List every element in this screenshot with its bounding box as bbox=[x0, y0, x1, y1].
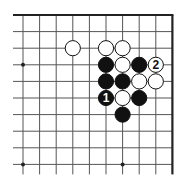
white-stone bbox=[98, 41, 113, 56]
white-stone bbox=[65, 41, 80, 56]
black-stone bbox=[115, 107, 130, 122]
white-stone bbox=[115, 41, 130, 56]
go-board-diagram: 21 bbox=[0, 0, 184, 190]
black-stone bbox=[98, 74, 113, 89]
black-stone: 1 bbox=[98, 90, 113, 105]
black-stone bbox=[132, 90, 147, 105]
white-stone bbox=[115, 90, 130, 105]
move-number-label: 1 bbox=[103, 91, 110, 105]
black-stone bbox=[115, 74, 130, 89]
move-number-label: 2 bbox=[152, 58, 159, 72]
black-stone bbox=[98, 57, 113, 72]
board-grid bbox=[13, 15, 173, 174]
white-stone bbox=[148, 74, 163, 89]
star-point bbox=[21, 63, 25, 67]
star-point bbox=[121, 162, 125, 166]
star-point bbox=[21, 162, 25, 166]
white-stone bbox=[132, 74, 147, 89]
black-stone bbox=[132, 57, 147, 72]
white-stone: 2 bbox=[148, 57, 163, 72]
white-stone bbox=[115, 57, 130, 72]
